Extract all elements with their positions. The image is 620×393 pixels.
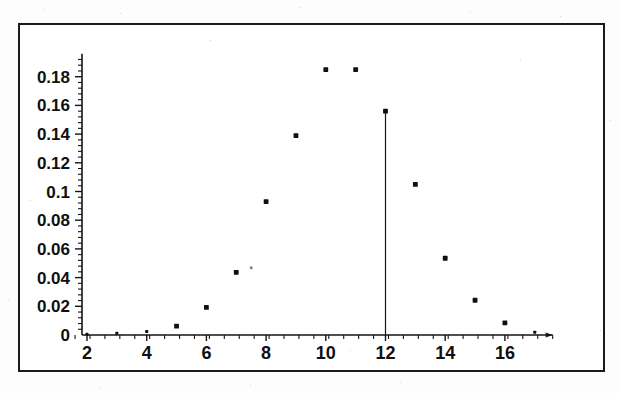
y-tick-label: 0.04 xyxy=(37,269,71,288)
data-point xyxy=(115,332,118,335)
x-tick-label: 14 xyxy=(435,343,455,363)
data-point xyxy=(204,305,209,310)
data-point xyxy=(294,133,299,138)
data-point xyxy=(234,270,239,275)
x-tick-labels: 246810121416 xyxy=(82,343,515,363)
scatter-chart: 00.020.040.060.080.10.120.140.160.18 246… xyxy=(0,0,620,393)
data-points xyxy=(86,67,537,336)
x-tick-label: 10 xyxy=(316,343,336,363)
x-tick-label: 12 xyxy=(375,343,395,363)
x-tick-label: 8 xyxy=(261,343,271,363)
data-point xyxy=(383,109,388,114)
y-axis xyxy=(75,54,82,335)
y-tick-label: 0.06 xyxy=(37,240,70,259)
data-point xyxy=(353,67,358,72)
data-point-faint xyxy=(250,267,253,270)
data-point xyxy=(503,320,508,325)
data-point xyxy=(443,256,448,261)
x-axis xyxy=(75,332,553,341)
data-point xyxy=(174,324,179,329)
figure-container: 00.020.040.060.080.10.120.140.160.18 246… xyxy=(0,0,620,393)
x-tick-label: 16 xyxy=(495,343,515,363)
data-point xyxy=(533,331,536,334)
data-point xyxy=(145,330,148,333)
y-tick-label: 0.12 xyxy=(37,154,70,173)
data-point xyxy=(86,333,89,336)
data-point xyxy=(323,67,328,72)
x-tick-label: 2 xyxy=(82,343,92,363)
plot-area: 00.020.040.060.080.10.120.140.160.18 246… xyxy=(0,0,620,393)
y-tick-label: 0.18 xyxy=(37,68,70,87)
x-tick-label: 4 xyxy=(142,343,152,363)
y-tick-label: 0.16 xyxy=(37,96,70,115)
x-tick-label: 6 xyxy=(201,343,211,363)
y-tick-label: 0.02 xyxy=(37,297,70,316)
y-tick-label: 0.14 xyxy=(37,125,71,144)
y-tick-label: 0 xyxy=(61,326,70,345)
y-tick-label: 0.1 xyxy=(46,183,70,202)
x-axis-arrow xyxy=(546,332,553,337)
data-point xyxy=(473,298,478,303)
data-point xyxy=(413,182,418,187)
y-tick-label: 0.08 xyxy=(37,211,70,230)
data-point xyxy=(264,199,269,204)
y-tick-labels: 00.020.040.060.080.10.120.140.160.18 xyxy=(37,68,71,345)
